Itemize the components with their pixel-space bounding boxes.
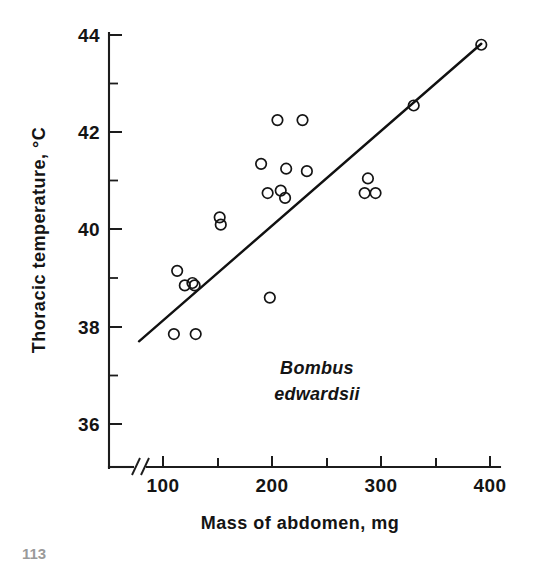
x-tick-label-200: 200 [256, 475, 289, 496]
data-point [272, 115, 283, 126]
y-tick-label-38: 38 [78, 317, 100, 338]
species-name-line2: edwardsii [274, 384, 360, 404]
page-number-artifact: 113 [22, 545, 46, 562]
data-point [172, 266, 183, 277]
scatter-plot: 44 42 40 38 36 100 200 300 400 Mass of a… [0, 0, 558, 562]
x-tick-label-400: 400 [474, 475, 507, 496]
data-point [262, 188, 273, 199]
x-axis-title: Mass of abdomen, mg [201, 513, 400, 533]
species-name-line1: Bombus [280, 358, 354, 378]
data-point [169, 329, 180, 340]
data-point [370, 188, 381, 199]
regression-fit-line [139, 44, 481, 342]
data-point [281, 163, 292, 174]
data-point [189, 280, 200, 291]
data-point [216, 219, 227, 230]
y-axis-title: Thoracic temperature, °C [29, 127, 49, 353]
data-point [256, 159, 267, 170]
y-axis-major-ticks [109, 35, 122, 424]
data-point [359, 188, 370, 199]
y-tick-label-40: 40 [78, 219, 100, 240]
x-tick-label-100: 100 [147, 475, 180, 496]
y-tick-label-42: 42 [78, 122, 100, 143]
figure-container: 44 42 40 38 36 100 200 300 400 Mass of a… [0, 0, 558, 562]
data-point [363, 173, 374, 184]
data-point-group [169, 39, 487, 339]
data-point [190, 329, 201, 340]
y-tick-label-36: 36 [78, 414, 100, 435]
data-point [302, 166, 313, 177]
x-axis-ticks [163, 456, 490, 467]
x-tick-label-300: 300 [365, 475, 398, 496]
data-point [265, 292, 276, 303]
data-point [297, 115, 308, 126]
y-tick-label-44: 44 [78, 25, 100, 46]
